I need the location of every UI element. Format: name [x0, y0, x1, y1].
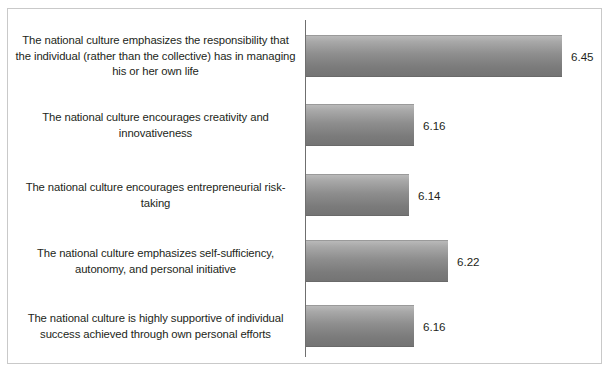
category-label: The national culture is highly supportiv… — [14, 311, 297, 342]
bar[interactable] — [306, 174, 409, 216]
bar-value-label: 6.45 — [571, 50, 594, 63]
category-axis-line — [305, 20, 306, 357]
bar[interactable] — [306, 305, 414, 347]
bar-value-label: 6.16 — [423, 119, 446, 132]
category-label: The national culture encourages entrepre… — [14, 180, 297, 211]
bar-value-label: 6.22 — [457, 255, 480, 268]
category-label: The national culture encourages creativi… — [14, 110, 297, 141]
bar[interactable] — [306, 35, 562, 77]
bar-value-label: 6.16 — [423, 320, 446, 333]
bar[interactable] — [306, 104, 414, 146]
category-label: The national culture emphasizes self-suf… — [14, 246, 297, 277]
category-label: The national culture emphasizes the resp… — [14, 33, 297, 80]
bar-chart: The national culture emphasizes the resp… — [0, 0, 610, 380]
bar[interactable] — [306, 240, 448, 282]
plot-area: The national culture emphasizes the resp… — [0, 0, 610, 380]
bar-value-label: 6.14 — [418, 189, 441, 202]
